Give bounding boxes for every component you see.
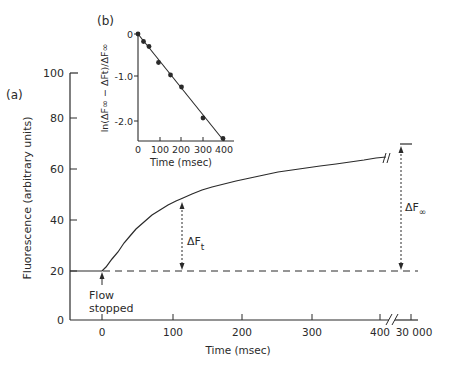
inset-y-tick-label: -1.0 bbox=[114, 71, 133, 82]
main-x-tick-label: 30 000 bbox=[396, 326, 433, 338]
fluorescence-trace bbox=[70, 157, 386, 271]
inset-y-axis-label: ln(ΔF∞ − ΔFt)/ΔF∞ bbox=[99, 44, 110, 133]
trace-break-icon bbox=[383, 153, 390, 163]
inset-x-tick-label: 300 bbox=[194, 144, 212, 155]
main-x-tick-label: 100 bbox=[163, 326, 183, 338]
inset-x-tick-label: 100 bbox=[151, 144, 169, 155]
figure: (a) 0 20 40 60 80 100 Fluorescence (arbi… bbox=[0, 0, 450, 372]
main-y-tick-label: 0 bbox=[57, 314, 64, 327]
main-x-axis-label: Time (msec) bbox=[204, 344, 270, 356]
main-y-tick-label: 20 bbox=[50, 265, 64, 278]
inset-x-axis-label: Time (msec) bbox=[149, 157, 212, 168]
main-y-ticks bbox=[70, 118, 77, 271]
inset-x-tick-label: 0 bbox=[135, 144, 141, 155]
delta-ft-arrow bbox=[180, 202, 185, 270]
inset-x-ticks bbox=[160, 137, 224, 141]
main-y-tick-label: 80 bbox=[50, 112, 64, 125]
inset-x-tick-label: 400 bbox=[215, 144, 233, 155]
main-x-tick-label: 400 bbox=[370, 326, 390, 338]
flow-stopped-label: Flow bbox=[89, 289, 114, 302]
main-y-tick-label: 100 bbox=[43, 67, 64, 80]
main-y-axis-label: Fluorescence (arbitrary units) bbox=[21, 117, 34, 280]
flow-stopped-arrow bbox=[100, 272, 105, 285]
main-x-tick-label: 300 bbox=[302, 326, 322, 338]
inset-y-ticks bbox=[134, 34, 138, 121]
flow-stopped-label: stopped bbox=[89, 302, 134, 315]
main-x-ticks bbox=[102, 314, 411, 320]
inset-y-tick-label: 0 bbox=[127, 29, 133, 40]
delta-finf-arrow bbox=[399, 146, 404, 270]
delta-finf-label: ΔF∞ bbox=[405, 201, 426, 217]
main-x-tick-label: 0 bbox=[99, 326, 106, 338]
main-x-tick-label: 200 bbox=[232, 326, 252, 338]
main-y-tick-label: 60 bbox=[50, 163, 64, 176]
panel-a-label: (a) bbox=[6, 88, 23, 102]
delta-ft-label: ΔFt bbox=[187, 235, 205, 252]
panel-b-label: (b) bbox=[97, 14, 114, 28]
inset-x-tick-label: 200 bbox=[172, 144, 190, 155]
inset-data-points bbox=[136, 32, 226, 141]
inset-y-tick-label: -2.0 bbox=[114, 116, 133, 127]
main-y-tick-label: 40 bbox=[50, 214, 64, 227]
